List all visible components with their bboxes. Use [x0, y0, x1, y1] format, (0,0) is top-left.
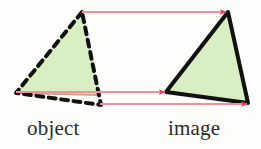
image-label: image — [168, 118, 220, 139]
image-triangle-shape — [166, 12, 248, 103]
object-triangle-fill — [17, 13, 99, 95]
figure-canvas: object image — [0, 0, 261, 149]
image-triangle-group — [166, 12, 248, 103]
object-label: object — [27, 118, 80, 139]
